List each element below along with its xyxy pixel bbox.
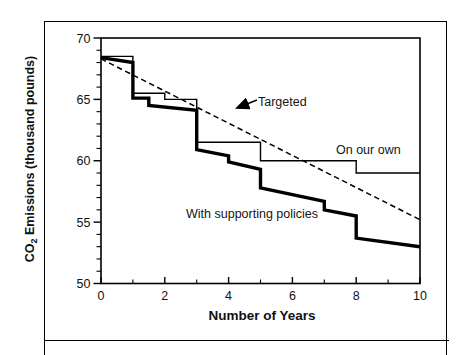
figure-page: 50556065700246810 Targeted On our own Wi… [0, 0, 465, 355]
x-tick-label: 6 [289, 289, 296, 303]
on-our-own-label: On our own [336, 143, 401, 157]
y-tick-label: 60 [77, 154, 91, 168]
x-axis-title: Number of Years [208, 308, 315, 323]
y-tick-label: 65 [77, 93, 91, 107]
with-supporting-policies-label: With supporting policies [186, 207, 318, 221]
x-tick-label: 4 [225, 289, 232, 303]
y-axis-title-prefix: CO [23, 243, 37, 262]
y-axis-title-suffix: Emissions (thousand pounds) [23, 56, 37, 239]
y-tick-label: 70 [77, 32, 91, 46]
x-tick-label: 8 [353, 289, 360, 303]
series-line-targeted [101, 59, 420, 220]
y-tick-label: 50 [77, 277, 91, 291]
y-tick-label: 55 [77, 216, 91, 230]
targeted-label: Targeted [258, 95, 307, 109]
targeted-arrow [238, 100, 257, 108]
y-axis-title: CO2 Emissions (thousand pounds) [23, 56, 40, 262]
y-axis-title-subscript: 2 [29, 238, 39, 243]
emissions-chart: 50556065700246810 [0, 0, 465, 355]
x-tick-label: 10 [413, 289, 427, 303]
x-tick-label: 2 [161, 289, 168, 303]
x-tick-label: 0 [98, 289, 105, 303]
